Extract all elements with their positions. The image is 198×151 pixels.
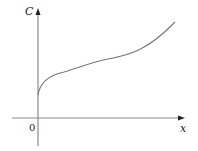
y-axis-arrow-icon <box>36 8 41 15</box>
x-axis-label: x <box>180 122 187 135</box>
cost-curve <box>38 22 175 95</box>
cost-function-graph: C x 0 <box>0 0 198 151</box>
y-axis-label: C <box>25 5 34 18</box>
x-axis-arrow-icon <box>178 116 185 121</box>
origin-label: 0 <box>29 122 35 133</box>
